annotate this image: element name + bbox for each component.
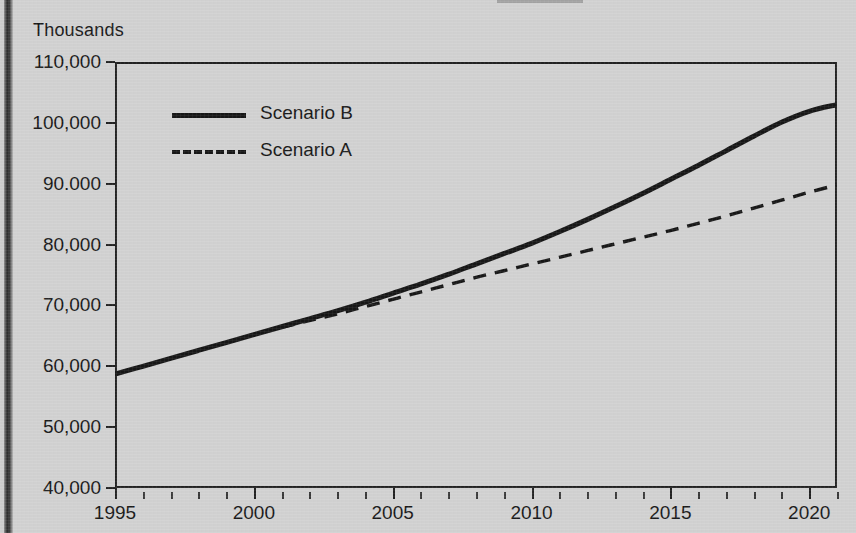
x-axis-tick-mark-minor — [781, 492, 783, 499]
x-axis-tick-mark-minor — [476, 492, 478, 499]
x-axis-tick-mark-minor — [309, 492, 311, 499]
x-axis-tick-mark-minor — [559, 492, 561, 499]
y-axis-tick-mark — [106, 365, 115, 367]
y-axis-tick-label: 110,000 — [0, 51, 101, 73]
legend-item-scenario-a: Scenario A — [172, 139, 432, 176]
x-axis-tick-mark-minor — [337, 492, 339, 499]
chart-page: Thousands 110,000100,00090.00080,00070,0… — [0, 0, 856, 533]
x-axis-tick-label: 2020 — [788, 502, 830, 524]
x-axis-tick-mark-minor — [365, 492, 367, 499]
x-axis-tick-mark-minor — [837, 492, 839, 499]
x-axis-tick-mark-minor — [643, 492, 645, 499]
x-axis-tick-label: 2010 — [510, 502, 552, 524]
x-axis-tick-label: 2015 — [649, 502, 691, 524]
y-axis-tick-mark — [106, 426, 115, 428]
y-axis-tick-label: 100,000 — [0, 112, 101, 134]
legend-label-scenario-a: Scenario A — [260, 139, 352, 161]
x-axis-tick-mark-minor — [420, 492, 422, 499]
x-axis-tick-mark-minor — [198, 492, 200, 499]
x-axis-tick-mark-major — [532, 488, 534, 499]
legend-label-scenario-b: Scenario B — [260, 102, 353, 124]
y-axis-tick-mark — [106, 487, 115, 489]
x-axis-tick-mark-minor — [754, 492, 756, 499]
x-axis-tick-mark-minor — [448, 492, 450, 499]
y-axis-tick-mark — [106, 244, 115, 246]
series-line-scenario-a — [282, 185, 837, 327]
x-axis-tick-mark-minor — [587, 492, 589, 499]
y-axis-tick-label: 90.000 — [0, 173, 101, 195]
y-axis-tick-label: 50,000 — [0, 416, 101, 438]
y-axis-tick-label: 80,000 — [0, 234, 101, 256]
x-axis-tick-mark-minor — [615, 492, 617, 499]
x-axis-tick-label: 2000 — [233, 502, 275, 524]
y-axis-tick-mark — [106, 304, 115, 306]
x-axis-tick-mark-major — [809, 488, 811, 499]
y-axis-tick-label: 60,000 — [0, 355, 101, 377]
x-axis-tick-mark-minor — [698, 492, 700, 499]
x-axis-tick-mark-minor — [504, 492, 506, 499]
x-axis-tick-mark-minor — [726, 492, 728, 499]
x-axis-tick-mark-minor — [282, 492, 284, 499]
legend: Scenario B Scenario A — [172, 102, 432, 176]
y-axis-tick-mark — [106, 183, 115, 185]
x-axis-tick-mark-major — [254, 488, 256, 499]
legend-swatch-dashed-icon — [172, 150, 246, 154]
x-axis-tick-label: 2005 — [372, 502, 414, 524]
x-axis-tick-label: 1995 — [94, 502, 136, 524]
cropped-title-artifact — [497, 0, 583, 3]
legend-swatch-solid-icon — [172, 113, 246, 118]
y-axis-tick-label: 70,000 — [0, 294, 101, 316]
legend-item-scenario-b: Scenario B — [172, 102, 432, 139]
scan-page-edge — [4, 0, 13, 533]
x-axis-tick-mark-major — [393, 488, 395, 499]
y-axis-tick-label: 40,000 — [0, 477, 101, 499]
y-axis-tick-mark — [106, 61, 115, 63]
x-axis-tick-mark-minor — [226, 492, 228, 499]
y-axis-tick-mark — [106, 122, 115, 124]
x-axis-tick-mark-minor — [171, 492, 173, 499]
x-axis-tick-mark-major — [670, 488, 672, 499]
x-axis-tick-mark-major — [115, 488, 117, 499]
plot-area: 110,000100,00090.00080,00070,00060,00050… — [115, 62, 837, 488]
x-axis-tick-mark-minor — [143, 492, 145, 499]
y-axis-unit-label: Thousands — [33, 20, 124, 41]
